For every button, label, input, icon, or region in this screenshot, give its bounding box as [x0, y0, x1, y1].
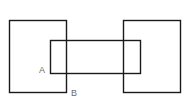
label-point-a: A [39, 65, 45, 75]
diagram-canvas: A B [0, 0, 189, 106]
left-square [10, 21, 67, 93]
label-point-b: B [71, 88, 77, 98]
middle-rectangle [51, 41, 141, 74]
right-square [124, 21, 181, 93]
